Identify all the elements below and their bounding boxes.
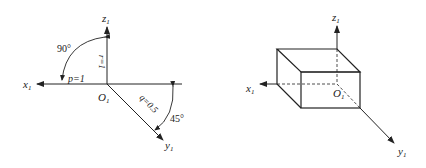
y-axis-label-right: y1 bbox=[397, 145, 406, 159]
diagram-canvas: z1 x1 y1 O1 90° 45° p=1 q=0.5 r=1 z1 x1 … bbox=[0, 0, 426, 168]
x-axis-label-right: x1 bbox=[245, 82, 254, 96]
origin-label-right: O1 bbox=[333, 87, 344, 101]
coefficient-p-label: p=1 bbox=[67, 73, 85, 84]
coefficient-q-label: q=0.5 bbox=[138, 92, 161, 115]
box-left-face bbox=[277, 49, 301, 108]
angle-label-90: 90° bbox=[57, 43, 71, 54]
left-axis-diagram: z1 x1 y1 O1 90° 45° p=1 q=0.5 r=1 bbox=[22, 12, 184, 153]
y-axis-label-left: y1 bbox=[164, 139, 173, 153]
x-axis-label-left: x1 bbox=[22, 78, 31, 92]
y-axis-right bbox=[360, 108, 394, 143]
z-axis-label-left: z1 bbox=[101, 12, 110, 26]
angle-label-45: 45° bbox=[170, 113, 184, 124]
coefficient-r-label: r=1 bbox=[97, 55, 107, 69]
box-top-face bbox=[277, 49, 360, 72]
right-box-diagram: z1 x1 y1 O1 bbox=[245, 11, 406, 159]
origin-label-left: O1 bbox=[98, 91, 109, 105]
box-front-face bbox=[301, 72, 360, 108]
z-axis-label-right: z1 bbox=[331, 11, 340, 25]
